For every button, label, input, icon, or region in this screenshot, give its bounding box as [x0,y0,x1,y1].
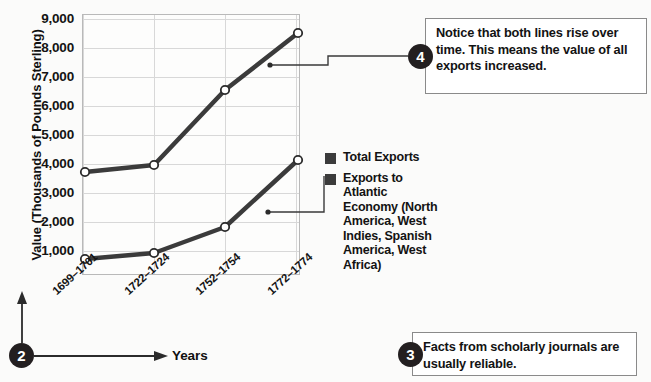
legend-swatch-icon [325,153,336,164]
legend-item-total-exports: Total Exports [325,150,445,165]
x-tick-1752-1754: 1752–1754 [193,251,242,297]
legend-item-atlantic-economy: Exports to Atlantic Economy (North Ameri… [325,171,445,273]
callout-box-4: Notice that both lines rise over time. T… [425,18,647,94]
x-axis-tick-labels: 1699–1701 1722–1724 1752–1754 1772–1774 [0,0,320,382]
legend-swatch-icon [325,174,336,185]
callout-marker-3: 3 [398,342,423,367]
callout-marker-4: 4 [408,44,433,69]
x-tick-1772-1774: 1772–1774 [265,251,314,297]
legend-label-atlantic-economy: Exports to Atlantic Economy (North Ameri… [343,171,445,273]
chart-figure: Value (Thousands of Pounds Sterling) 9,0… [0,0,320,382]
callout-box-3: Facts from scholarly journals are usuall… [412,332,637,376]
x-tick-1722-1724: 1722–1724 [122,251,171,297]
x-tick-1699-1701: 1699–1701 [50,251,99,297]
x-axis-title: Years [172,348,208,363]
callout-marker-2: 2 [9,343,34,368]
legend-label-total-exports: Total Exports [343,150,419,165]
chart-legend: Total Exports Exports to Atlantic Econom… [325,150,445,278]
